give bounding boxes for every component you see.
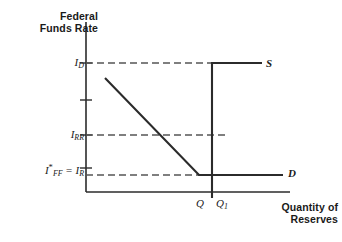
q-base: Q	[196, 197, 204, 209]
y-axis-title-line1: Federal	[60, 10, 98, 22]
i-r-subscript: R	[79, 169, 84, 178]
y-axis-title-line2: Funds Rate	[40, 22, 98, 34]
demand-curve-label: D	[288, 167, 296, 180]
y-tick-label-i-ff: I*FF = IR	[16, 163, 84, 178]
supply-curve-label: S	[266, 57, 272, 70]
diagram-canvas: Federal Funds Rate Quantity of Reserves …	[0, 0, 342, 242]
y-tick-label-i-d: ID	[46, 56, 84, 70]
x-axis-title-line2: Reserves	[290, 213, 338, 225]
q1-subscript: 1	[224, 202, 228, 211]
demand-curve	[105, 78, 283, 175]
supply-curve	[212, 63, 262, 198]
i-ff-equals-sign: =	[65, 164, 72, 176]
x-tick-label-q: Q	[196, 197, 204, 211]
x-axis-title-line1: Quantity of	[281, 201, 338, 213]
y-axis-title: Federal Funds Rate	[26, 10, 98, 34]
q1-base: Q	[216, 197, 224, 209]
x-axis-title: Quantity of Reserves	[246, 201, 338, 225]
x-tick-label-q1: Q1	[216, 197, 228, 211]
y-tick-label-i-rr: IRR	[42, 128, 84, 142]
i-rr-subscript: RR	[74, 133, 84, 142]
i-ff-subscript: FF	[53, 169, 63, 178]
i-d-subscript: D	[78, 61, 84, 70]
